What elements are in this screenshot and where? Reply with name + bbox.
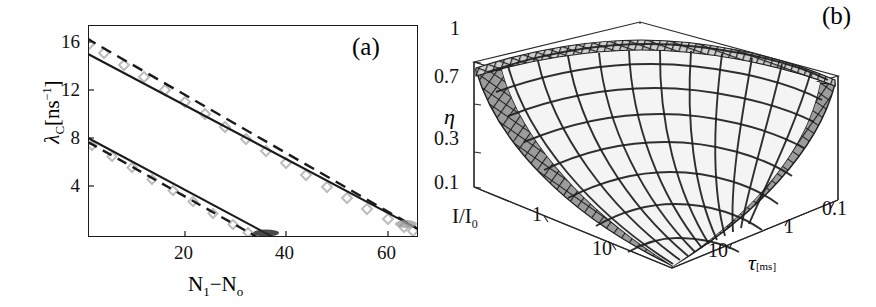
lambda-subscript: C (52, 126, 67, 135)
figure-container: 16 12 8 4 20 40 60 λC[ns−1] N1−No (a) (0, 0, 876, 307)
panel-b-ztick-0.1: 0.1 (434, 172, 459, 192)
n-subscript-o: o (237, 284, 244, 299)
tau-unit: [ms] (756, 260, 776, 272)
panel-a-xtick-60: 60 (377, 243, 396, 262)
panel-b-ztick-0.3: 0.3 (434, 128, 459, 148)
panel-b-y-axis-label: I/I0 (452, 206, 478, 230)
panel-a-y-axis-label: λC[ns−1] (40, 52, 68, 172)
panel-b-xtick-10: 10 (708, 240, 728, 260)
panel-b-xtick-1: 1 (784, 216, 794, 236)
panel-b-ytick-10: 10 (592, 238, 612, 258)
panel-b-ytick-1: 1 (532, 204, 542, 224)
panel-a-ytick-16: 16 (36, 32, 80, 51)
unit-exponent: −1 (40, 87, 54, 100)
panel-a-ytick-4: 4 (36, 176, 80, 195)
panel-b: 1 0.7 0.3 0.1 η I/I0 1 10 10 1 0.1 τ[ms]… (436, 0, 876, 307)
i-over-i0: I/I (452, 204, 472, 228)
panel-a: 16 12 8 4 20 40 60 λC[ns−1] N1−No (a) (0, 0, 436, 307)
n-symbol-1: N (188, 272, 203, 296)
panel-a-tag: (a) (352, 33, 380, 61)
panel-b-z-axis-label: η (444, 104, 455, 130)
tau-symbol: τ (748, 250, 756, 275)
panel-a-xtick-20: 20 (174, 243, 193, 262)
panel-b-drawing (436, 0, 876, 307)
panel-b-ztick-1: 1 (450, 18, 460, 38)
panel-a-x-axis-label: N1−No (188, 272, 243, 300)
panel-b-ztick-0.7: 0.7 (434, 66, 459, 86)
i0-subscript: 0 (472, 217, 478, 231)
panel-b-x-axis-label: τ[ms] (748, 250, 776, 276)
panel-b-tag: (b) (822, 2, 851, 30)
unit-close: ] (40, 80, 64, 87)
panel-b-surface (476, 40, 835, 266)
minus-n: −N (210, 272, 237, 296)
lambda-symbol: λ (40, 135, 64, 144)
unit-open: [ns (40, 100, 64, 126)
panel-a-xtick-40: 40 (275, 243, 294, 262)
panel-b-xtick-0.1: 0.1 (822, 198, 847, 218)
